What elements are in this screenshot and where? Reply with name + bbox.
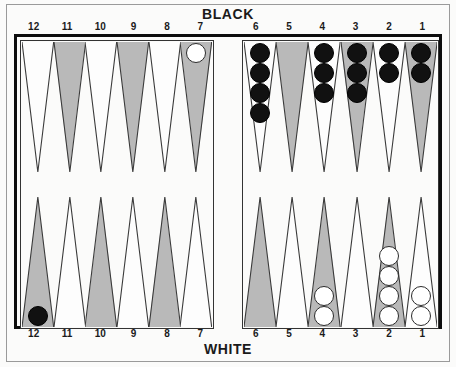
checker-white[interactable] <box>379 246 399 266</box>
point-number: 4 <box>306 327 339 341</box>
quadrant-bottom-right <box>244 184 437 327</box>
checker-black[interactable] <box>314 83 334 103</box>
point-triangle <box>180 197 212 327</box>
board-point-10[interactable] <box>85 42 117 185</box>
board-point-4[interactable] <box>308 184 340 327</box>
point-triangle <box>54 197 86 327</box>
checker-white[interactable] <box>379 266 399 286</box>
board-point-3[interactable] <box>341 184 373 327</box>
checker-black[interactable] <box>250 83 270 103</box>
point-number: 6 <box>239 20 272 34</box>
board-point-3[interactable] <box>341 42 373 185</box>
checker-white[interactable] <box>314 286 334 306</box>
checker-stack <box>308 286 340 326</box>
checker-black[interactable] <box>411 43 431 63</box>
point-triangle <box>341 197 373 327</box>
board-point-9[interactable] <box>117 42 149 185</box>
board-point-6[interactable] <box>244 184 276 327</box>
point-number: 3 <box>339 20 372 34</box>
board-point-12[interactable] <box>22 184 54 327</box>
checker-black[interactable] <box>250 103 270 123</box>
quadrant-bottom-left <box>22 184 212 327</box>
checker-white[interactable] <box>379 286 399 306</box>
board-point-2[interactable] <box>373 42 405 185</box>
backgammon-board-figure: BLACK 12 11 10 9 8 7 6 5 4 3 2 1 <box>0 0 456 367</box>
board-point-7[interactable] <box>180 42 212 185</box>
checker-white[interactable] <box>314 306 334 326</box>
point-number: 3 <box>339 327 372 341</box>
bar-number-gap <box>217 327 239 341</box>
point-number: 9 <box>117 20 150 34</box>
board-point-5[interactable] <box>276 42 308 185</box>
point-number: 2 <box>372 20 405 34</box>
point-triangle <box>22 42 54 172</box>
board-point-2[interactable] <box>373 184 405 327</box>
point-numbers-top-left: 12 11 10 9 8 7 <box>17 20 217 34</box>
checker-stack <box>308 43 340 103</box>
board-point-9[interactable] <box>117 184 149 327</box>
point-number: 11 <box>50 20 83 34</box>
point-number: 9 <box>117 327 150 341</box>
point-number: 2 <box>372 327 405 341</box>
point-number: 5 <box>272 327 305 341</box>
checker-black[interactable] <box>379 43 399 63</box>
point-number: 5 <box>272 20 305 34</box>
board-point-7[interactable] <box>180 184 212 327</box>
point-triangle <box>276 197 308 327</box>
checker-stack <box>180 43 212 63</box>
board-point-1[interactable] <box>405 184 437 327</box>
checker-white[interactable] <box>411 286 431 306</box>
board-frame <box>14 34 442 329</box>
checker-stack <box>244 43 276 123</box>
point-triangle <box>117 42 149 172</box>
checker-black[interactable] <box>347 63 367 83</box>
board-point-11[interactable] <box>54 42 86 185</box>
checker-white[interactable] <box>186 43 206 63</box>
checker-black[interactable] <box>28 306 48 326</box>
checker-stack <box>405 43 437 83</box>
board-point-11[interactable] <box>54 184 86 327</box>
point-numbers-bottom-right: 6 5 4 3 2 1 <box>239 327 439 341</box>
point-triangle <box>149 197 181 327</box>
point-number: 8 <box>150 327 183 341</box>
point-triangle <box>85 42 117 172</box>
checker-black[interactable] <box>250 43 270 63</box>
point-triangle <box>276 42 308 172</box>
point-numbers-top-right: 6 5 4 3 2 1 <box>239 20 439 34</box>
board-point-12[interactable] <box>22 42 54 185</box>
board-point-5[interactable] <box>276 184 308 327</box>
point-numbers-bottom: 12 11 10 9 8 7 6 5 4 3 2 1 <box>17 327 439 341</box>
checker-stack <box>373 246 405 326</box>
board-half-right <box>242 40 439 329</box>
checker-black[interactable] <box>250 63 270 83</box>
board-point-1[interactable] <box>405 42 437 185</box>
point-triangle <box>117 197 149 327</box>
board-point-8[interactable] <box>149 184 181 327</box>
board-bar[interactable] <box>214 40 242 329</box>
point-number: 8 <box>150 20 183 34</box>
point-number: 4 <box>306 20 339 34</box>
point-number: 10 <box>84 327 117 341</box>
point-number: 1 <box>406 20 439 34</box>
checker-black[interactable] <box>411 63 431 83</box>
point-triangle <box>54 42 86 172</box>
point-number: 7 <box>184 20 217 34</box>
checker-black[interactable] <box>314 63 334 83</box>
checker-black[interactable] <box>347 43 367 63</box>
bar-number-gap <box>217 20 239 34</box>
board-point-10[interactable] <box>85 184 117 327</box>
checker-black[interactable] <box>379 63 399 83</box>
point-numbers-bottom-left: 12 11 10 9 8 7 <box>17 327 217 341</box>
quadrant-top-right <box>244 42 437 185</box>
board-point-4[interactable] <box>308 42 340 185</box>
checker-black[interactable] <box>347 83 367 103</box>
board-point-6[interactable] <box>244 42 276 185</box>
checker-black[interactable] <box>314 43 334 63</box>
checker-white[interactable] <box>411 306 431 326</box>
point-number: 7 <box>184 327 217 341</box>
point-number: 12 <box>17 327 50 341</box>
board-point-8[interactable] <box>149 42 181 185</box>
point-triangle <box>244 197 276 327</box>
checker-stack <box>341 43 373 103</box>
checker-white[interactable] <box>379 306 399 326</box>
